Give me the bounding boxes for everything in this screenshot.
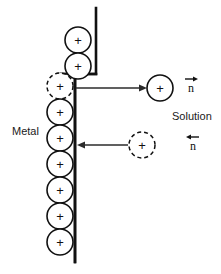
normal-vector-out: n	[185, 77, 198, 95]
ion-charge-sign: +	[56, 157, 64, 172]
ion-charge-sign: +	[74, 59, 82, 74]
deposition-arrow	[77, 142, 128, 149]
normal-vector-label-out: n	[188, 81, 194, 95]
ion-charge-sign: +	[56, 131, 64, 146]
ion-charge-sign: +	[56, 235, 64, 250]
lattice-ion: +	[65, 27, 91, 53]
ion-charge-sign: +	[138, 138, 146, 153]
lattice-ion: +	[47, 229, 73, 255]
solution-region-label: Solution	[172, 110, 212, 122]
ion-charge-sign: +	[74, 33, 82, 48]
electrochemistry-diagram: + + + + + + +	[0, 0, 221, 274]
dissolved-ion: +	[147, 75, 173, 101]
lattice-ion: +	[65, 53, 91, 79]
lattice-ion: +	[47, 203, 73, 229]
lattice-ion: +	[47, 151, 73, 177]
normal-vector-label-in: n	[190, 139, 196, 153]
ion-charge-sign: +	[56, 105, 64, 120]
lattice-ion: +	[47, 99, 73, 125]
depositing-ion: +	[129, 132, 155, 158]
lattice-ion-vacancy: +	[47, 73, 73, 99]
lattice-ion: +	[47, 177, 73, 203]
arrow-head-right	[139, 85, 147, 92]
metal-region-label: Metal	[12, 125, 39, 137]
ion-charge-sign: +	[56, 209, 64, 224]
metal-lattice-ions: + + + + + + +	[47, 27, 91, 255]
arrow-head-left	[77, 142, 85, 149]
lattice-ion: +	[47, 125, 73, 151]
ion-charge-sign: +	[56, 79, 64, 94]
ion-charge-sign: +	[56, 183, 64, 198]
diagram-canvas: + + + + + + +	[0, 0, 221, 274]
normal-vector-in: n	[186, 135, 199, 153]
ion-charge-sign: +	[156, 81, 164, 96]
dissolution-arrow	[76, 85, 147, 92]
